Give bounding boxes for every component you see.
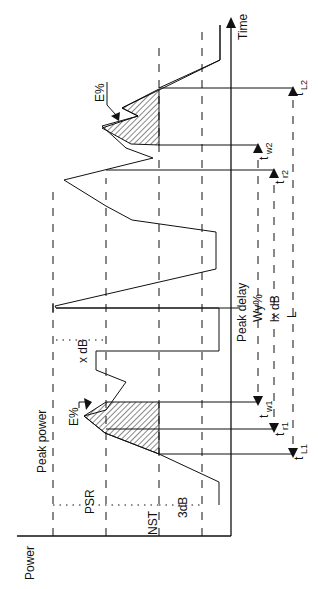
profile-upper-segment (159, 25, 220, 88)
svg-text:r1: r1 (280, 422, 290, 430)
energy-pointer-2-arrow-icon (111, 112, 120, 121)
energy-region-1 (84, 402, 159, 454)
wy-label: Wy% (251, 294, 265, 322)
tw1-arrow-icon (253, 396, 263, 406)
peak-power-label: Peak power (35, 410, 49, 473)
energy-pointer-2 (107, 82, 116, 115)
peak-delay-label: Peak delay (235, 283, 249, 342)
tl2-label: t L2 (292, 80, 309, 96)
svg-text:t: t (273, 180, 287, 184)
svg-text:L2: L2 (299, 80, 309, 90)
svg-text:w1: w1 (264, 400, 274, 413)
svg-text:L1: L1 (299, 444, 309, 454)
svg-text:r2: r2 (280, 170, 290, 178)
tr1-arrow-icon (269, 423, 279, 433)
svg-text:t: t (257, 414, 271, 418)
svg-text:t: t (257, 156, 271, 160)
three-db-label: 3dB (176, 497, 190, 518)
power-axis-label: Power (23, 546, 37, 580)
energy-label-2: E% (93, 83, 107, 102)
energy-region-2 (102, 89, 159, 145)
power-delay-profile-diagram: Power Time Peak power PSR NST 3dB x dB E… (0, 0, 318, 589)
nst-label: NST (146, 510, 160, 535)
energy-label-1: E% (67, 407, 81, 426)
time-axis-arrow-icon (226, 17, 236, 28)
time-axis-label: Time (236, 13, 250, 40)
x-db-label: x dB (76, 339, 90, 363)
svg-text:w2: w2 (264, 142, 274, 155)
svg-text:t: t (273, 432, 287, 436)
tl1-arrow-icon (288, 448, 298, 458)
tw1-label: t w1 (257, 400, 274, 418)
psr-label: PSR (83, 489, 97, 514)
energy-pointer-1-arrow-icon (84, 398, 92, 410)
l-label: L (285, 311, 299, 318)
lx-db-label: lx dB (268, 295, 282, 322)
svg-text:t: t (292, 456, 306, 460)
